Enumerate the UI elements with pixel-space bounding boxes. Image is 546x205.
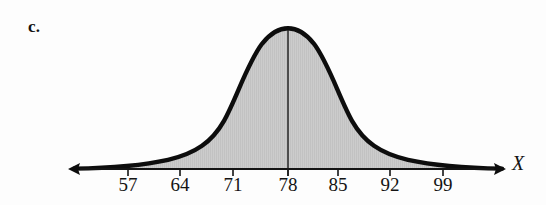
tick-label-85: 85	[329, 174, 348, 196]
tick-label-64: 64	[171, 174, 190, 196]
tick-label-99: 99	[434, 174, 453, 196]
tick-label-92: 92	[381, 174, 400, 196]
tick-label-57: 57	[119, 174, 138, 196]
tick-label-78: 78	[279, 174, 298, 196]
normal-distribution-figure: c.	[0, 0, 546, 205]
tick-label-71: 71	[224, 174, 243, 196]
bell-curve-plot	[0, 0, 546, 205]
x-axis-label: X	[512, 152, 524, 175]
